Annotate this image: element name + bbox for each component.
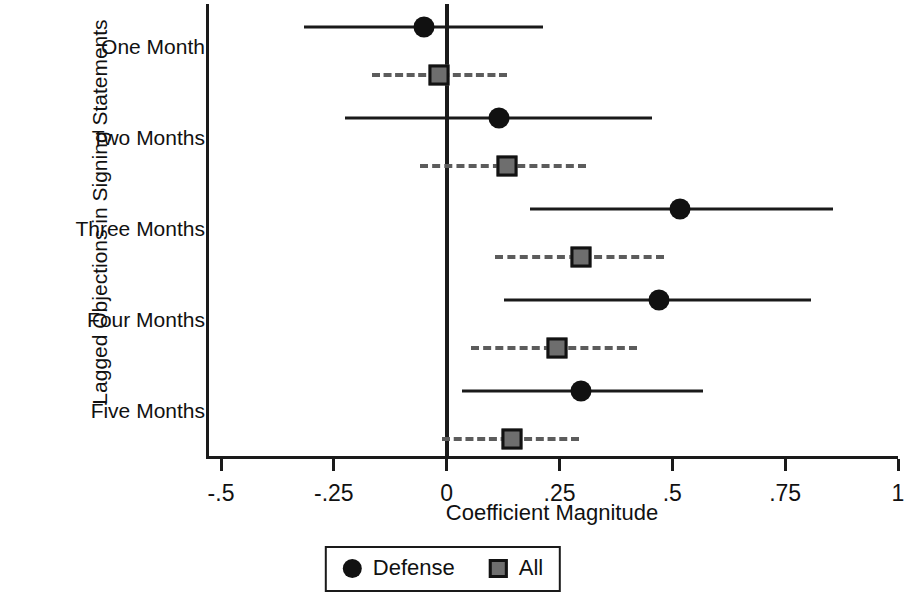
data-point-defense (570, 380, 591, 401)
x-axis-line (206, 456, 898, 459)
y-axis-category-labels: One MonthTwo MonthsThree MonthsFour Mont… (0, 0, 205, 591)
x-axis-tick (784, 459, 787, 471)
plot-area: -.5-.250.25.5.751 (206, 4, 898, 459)
x-axis-tick (220, 459, 223, 471)
x-axis-tick (332, 459, 335, 471)
data-point-defense (648, 289, 669, 310)
x-axis-tick (671, 459, 674, 471)
x-axis-tick (897, 459, 900, 471)
legend-item-all: All (489, 555, 543, 581)
data-point-all (547, 337, 568, 358)
data-point-defense (670, 198, 691, 219)
data-point-all (496, 155, 517, 176)
y-axis-category-label: Four Months (5, 308, 205, 332)
legend-label-defense: Defense (373, 555, 455, 581)
data-point-all (428, 64, 449, 85)
y-axis-line (206, 4, 209, 459)
legend-item-defense: Defense (343, 555, 455, 581)
x-axis-tick (558, 459, 561, 471)
y-axis-category-label: Five Months (5, 399, 205, 423)
legend-label-all: All (519, 555, 543, 581)
x-axis-title: Coefficient Magnitude (206, 500, 898, 526)
data-point-all (570, 246, 591, 267)
y-axis-category-label: Two Months (5, 126, 205, 150)
chart-legend: Defense All (325, 546, 561, 592)
y-axis-category-label: Three Months (5, 217, 205, 241)
data-point-defense (414, 16, 435, 37)
x-axis-tick (445, 459, 448, 471)
square-marker-icon (489, 559, 508, 578)
data-point-defense (489, 107, 510, 128)
data-point-all (501, 428, 522, 449)
y-axis-category-label: One Month (5, 35, 205, 59)
circle-marker-icon (343, 559, 362, 578)
